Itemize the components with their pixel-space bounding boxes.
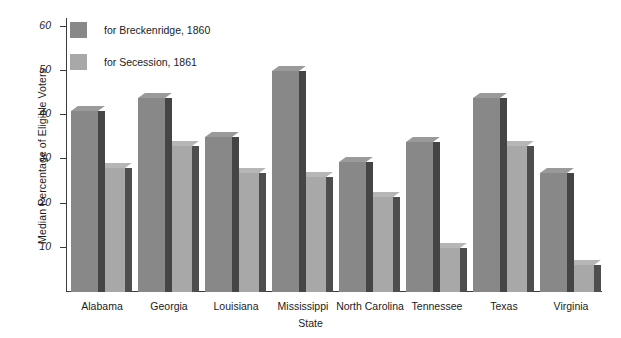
legend-label-breckenridge: for Breckenridge, 1860 [104,24,210,36]
x-tick-label: Virginia [554,300,589,312]
x-tick-label: Mississippi [278,300,329,312]
bar-side [125,168,132,292]
bar-side [98,111,105,292]
y-tick-label: 40 [39,107,51,119]
bar-face [339,162,366,292]
bar-side [460,248,467,292]
bar-side [192,146,199,292]
y-tick-label: 30 [39,151,51,163]
bar-side [527,146,534,292]
legend-item-breckenridge: for Breckenridge, 1860 [70,22,210,38]
bar-mississippi-series-0 [272,71,299,292]
bar-side [232,137,239,292]
bar-face [272,71,299,292]
y-tick: 10 [60,247,66,248]
bar-side [326,177,333,292]
bar-face [138,98,165,292]
bar-side [259,173,266,292]
bar-side [500,98,507,292]
y-tick: 30 [60,158,66,159]
bar-louisiana-series-0 [205,137,232,292]
x-tick-label: Tennessee [412,300,463,312]
y-tick-label: 20 [39,196,51,208]
bar-north-carolina-series-0 [339,162,366,292]
bar-side [433,142,440,292]
x-tick-label: Louisiana [214,300,259,312]
bar-face [205,137,232,292]
legend-swatch-icon-breckenridge [70,22,87,38]
y-tick-label: 10 [39,240,51,252]
y-tick: 20 [60,203,66,204]
legend-swatch-icon-secession [70,54,87,70]
bar-side [393,197,400,292]
bar-tennessee-series-0 [406,142,433,292]
x-axis-title: State [0,317,621,329]
bar-texas-series-0 [473,98,500,292]
bar-side [366,162,373,292]
x-tick-label: North Carolina [336,300,404,312]
y-tick-label: 60 [39,19,51,31]
bar-face [473,98,500,292]
bar-face [406,142,433,292]
bar-side [299,71,306,292]
y-axis-line [66,18,67,292]
bar-side [165,98,172,292]
bar-side [594,265,601,292]
bar-chart: Median Percentage of Eligible Voters Sta… [0,0,621,338]
x-tick-label: Texas [490,300,517,312]
x-tick-label: Georgia [150,300,187,312]
bar-alabama-series-0 [71,111,98,292]
bar-georgia-series-0 [138,98,165,292]
bar-face [540,173,567,292]
legend-item-secession: for Secession, 1861 [70,54,210,70]
bar-face [71,111,98,292]
y-tick: 60 [60,26,66,27]
bar-virginia-series-0 [540,173,567,292]
legend: for Breckenridge, 1860 for Secession, 18… [70,22,210,86]
y-tick: 40 [60,114,66,115]
x-tick-label: Alabama [81,300,122,312]
y-tick-label: 50 [39,63,51,75]
y-tick: 50 [60,70,66,71]
bar-side [567,173,574,292]
legend-label-secession: for Secession, 1861 [104,56,197,68]
